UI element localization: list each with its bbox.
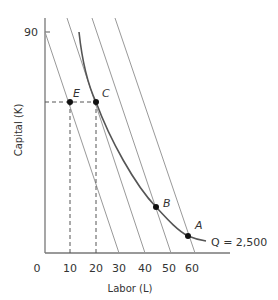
y-axis-title: Capital (K) bbox=[13, 104, 24, 157]
point-b-label: B bbox=[163, 197, 171, 210]
point-a-label: A bbox=[194, 219, 203, 232]
x-tick-label-60: 60 bbox=[185, 262, 199, 275]
isoquant-isocost-chart: 90 E C B A Q = 2,500 0 10 20 30 40 50 60… bbox=[0, 0, 278, 300]
x-tick-label-0: 0 bbox=[34, 262, 41, 275]
point-e-label: E bbox=[73, 87, 80, 100]
isoquant-label: Q = 2,500 bbox=[211, 236, 267, 249]
isocost-line-3 bbox=[92, 18, 171, 253]
isoquant-curve bbox=[79, 32, 206, 241]
x-axis-title: Labor (L) bbox=[108, 283, 153, 294]
point-a bbox=[185, 233, 191, 239]
point-b bbox=[153, 204, 159, 210]
x-tick-label-40: 40 bbox=[138, 262, 152, 275]
point-c bbox=[93, 99, 99, 105]
x-tick-label-50: 50 bbox=[162, 262, 176, 275]
x-tick-label-30: 30 bbox=[112, 262, 126, 275]
x-tick-label-20: 20 bbox=[89, 262, 103, 275]
x-tick-label-10: 10 bbox=[63, 262, 77, 275]
isocost-line-4 bbox=[115, 18, 195, 253]
point-c-label: C bbox=[102, 87, 110, 100]
y-tick-label-90: 90 bbox=[24, 26, 38, 39]
isocost-line-2 bbox=[67, 18, 145, 253]
